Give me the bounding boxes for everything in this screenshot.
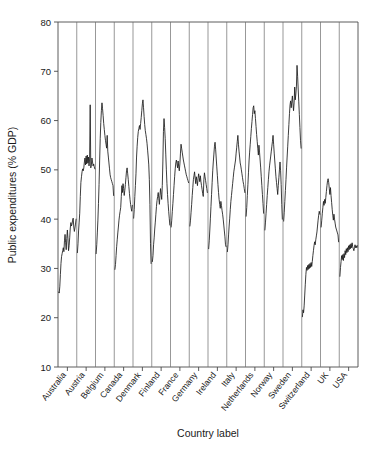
chart-svg: 1020304050607080 AustraliaAustriaBelgium… (0, 0, 381, 453)
y-tick-label: 60 (40, 115, 51, 126)
y-tick-label: 80 (40, 17, 51, 28)
y-axis-label: Public expenditures (% GDP) (6, 127, 18, 264)
y-tick-label: 10 (40, 362, 51, 373)
y-tick-label: 50 (40, 164, 51, 175)
y-tick-label: 70 (40, 66, 51, 77)
y-tick-label: 30 (40, 263, 51, 274)
chart-figure: 1020304050607080 AustraliaAustriaBelgium… (0, 0, 381, 453)
y-tick-label: 20 (40, 312, 51, 323)
y-tick-label: 40 (40, 214, 51, 225)
x-axis-label: Country label (177, 427, 239, 439)
